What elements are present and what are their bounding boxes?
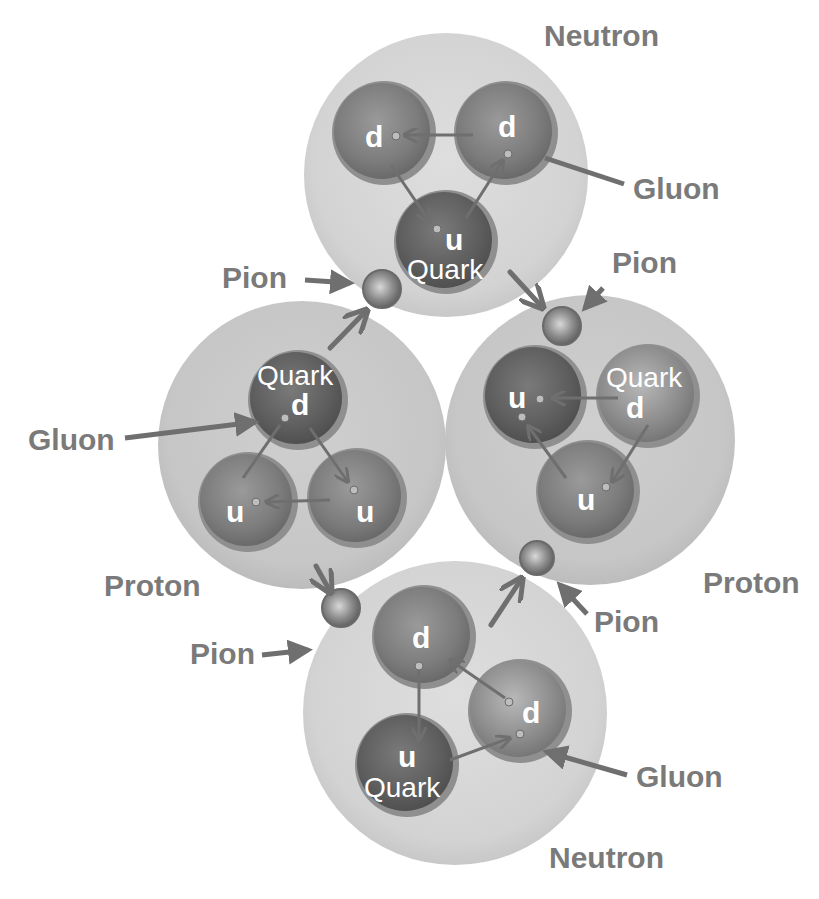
label-proton-right: Proton <box>703 566 800 599</box>
quark-flavor: u <box>356 495 374 528</box>
label-neutron-bottom: Neutron <box>549 841 664 874</box>
nucleon-pion-diagram: d d u Quark Quark d u u <box>0 0 819 899</box>
label-gluon-bottom: Gluon <box>636 760 723 793</box>
quark-flavor: d <box>365 120 383 153</box>
label-gluon-top: Gluon <box>633 172 720 205</box>
quark-flavor: d <box>498 110 516 143</box>
quark-d-top-left <box>332 81 436 185</box>
quark-caption: Quark <box>257 360 334 391</box>
quark-flavor: d <box>522 696 540 729</box>
pion-top-right <box>543 307 581 345</box>
quark-flavor: u <box>445 223 463 256</box>
quark-flavor: d <box>626 391 644 424</box>
label-gluon-left: Gluon <box>28 423 115 456</box>
label-pion-bottom-left: Pion <box>190 637 255 670</box>
quark-flavor: u <box>508 381 526 414</box>
quark-caption: Quark <box>364 772 441 803</box>
label-pion-top-right: Pion <box>612 246 677 279</box>
quark-flavor: d <box>412 621 430 654</box>
quark-flavor: d <box>291 388 309 421</box>
quark-caption: Quark <box>407 254 484 285</box>
quark-caption: Quark <box>606 362 683 393</box>
pion-top-left <box>363 270 401 308</box>
quark-flavor: u <box>226 495 244 528</box>
label-pion-top-left: Pion <box>222 261 287 294</box>
pion-bottom-left <box>322 589 360 627</box>
label-neutron-top: Neutron <box>544 19 659 52</box>
quark-d-right <box>596 344 700 448</box>
quark-flavor: u <box>398 740 416 773</box>
label-proton-left: Proton <box>104 569 201 602</box>
label-pion-bottom-right: Pion <box>594 605 659 638</box>
quark-flavor: u <box>577 483 595 516</box>
pion-bottom-right <box>520 541 554 575</box>
